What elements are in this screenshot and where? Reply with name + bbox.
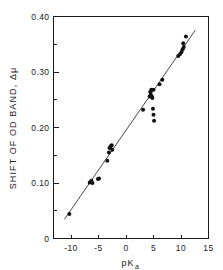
data-point [141, 108, 145, 112]
x-axis-title: pK [121, 258, 134, 268]
data-point [152, 88, 156, 92]
data-point [105, 159, 109, 163]
y-tick-label: 0.20 [31, 123, 49, 133]
data-point [110, 148, 114, 152]
x-axis-title-group: pK a [121, 258, 139, 270]
x-tick-label: 5 [151, 243, 156, 253]
y-tick-label: 0.30 [31, 67, 49, 77]
axis-frame [54, 17, 209, 239]
data-point [160, 78, 164, 82]
regression-line-group [64, 30, 195, 219]
x-tick-label: 15 [203, 243, 213, 253]
x-tick-label: 10 [176, 243, 186, 253]
regression-line [64, 30, 195, 219]
y-tick-label: 0.10 [31, 178, 49, 188]
x-tick-labels-group: -10-5051015 [64, 243, 213, 253]
x-tick-label: -10 [64, 243, 78, 253]
y-tick-labels-group: 00.100.200.300.40 [31, 12, 49, 244]
data-point [107, 150, 111, 154]
axis-frame-path [54, 17, 209, 239]
x-tick-label: -5 [94, 243, 102, 253]
data-point [150, 96, 154, 100]
scatter-plot: -10-5051015 00.100.200.300.40 pK a SHIFT… [0, 0, 223, 270]
data-point [151, 107, 155, 111]
data-point [181, 41, 185, 45]
y-axis-title: SHIFT OF OD BAND, Δμ [8, 67, 18, 190]
data-point [67, 212, 71, 216]
data-point [158, 82, 162, 86]
tick-marks-group [54, 17, 209, 239]
chart-figure: -10-5051015 00.100.200.300.40 pK a SHIFT… [0, 0, 223, 270]
data-point [110, 143, 114, 147]
x-axis-title-subscript: a [135, 263, 139, 270]
y-axis-title-group: SHIFT OF OD BAND, Δμ [8, 67, 18, 190]
data-point [90, 181, 94, 185]
data-point [184, 34, 188, 38]
y-tick-label: 0.40 [31, 12, 49, 22]
data-point [182, 45, 186, 49]
data-point [97, 177, 101, 181]
y-tick-label: 0 [44, 234, 49, 244]
data-point [152, 113, 156, 117]
data-point [152, 119, 156, 123]
x-tick-label: 0 [123, 243, 128, 253]
